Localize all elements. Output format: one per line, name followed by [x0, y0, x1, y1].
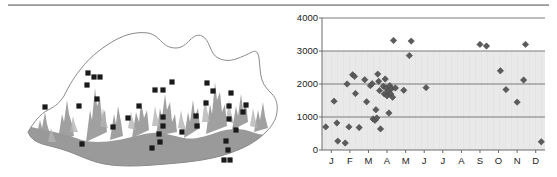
x-tick-label: A [458, 155, 465, 166]
y-tick-label: 2000 [297, 78, 318, 89]
map-marker [221, 157, 226, 162]
y-tick-label: 4000 [297, 12, 318, 23]
map-marker [160, 87, 165, 92]
elevation-scatter-panel: 01000200030004000 JFMAMJJASOND [292, 10, 557, 177]
x-tick-label: F [347, 155, 353, 166]
chart-x-axis-labels: JFMAMJJASOND [329, 155, 539, 166]
map-marker [228, 90, 233, 95]
y-tick-label: 3000 [297, 45, 318, 56]
map-marker [160, 123, 165, 128]
map-marker [194, 123, 199, 128]
map-marker [152, 87, 157, 92]
x-tick-label: M [402, 155, 410, 166]
x-tick-label: M [364, 155, 372, 166]
y-tick-label: 1000 [297, 111, 318, 122]
x-tick-label: J [329, 155, 334, 166]
map-marker [203, 100, 208, 105]
x-tick-label: O [495, 155, 502, 166]
chart-y-axis-labels: 01000200030004000 [297, 12, 322, 155]
map-relief-shading [0, 14, 292, 177]
map-marker [84, 82, 89, 87]
map-marker [240, 109, 245, 114]
map-marker [226, 103, 231, 108]
map-marker [94, 96, 99, 101]
map-marker [156, 131, 161, 136]
map-marker [85, 70, 90, 75]
elevation-scatter-svg: 01000200030004000 JFMAMJJASOND [292, 10, 557, 177]
map-marker [169, 79, 174, 84]
map-marker [97, 74, 102, 79]
map-marker [136, 103, 141, 108]
map-marker [79, 141, 84, 146]
map-marker [226, 116, 231, 121]
map-marker [110, 124, 115, 129]
bhutan-map-svg [0, 14, 292, 177]
plot-background-upper [322, 18, 545, 51]
map-marker [160, 114, 165, 119]
map-marker [227, 157, 232, 162]
x-tick-label: J [422, 155, 427, 166]
distribution-map-panel [0, 14, 292, 177]
map-marker [157, 139, 162, 144]
x-tick-label: S [477, 155, 483, 166]
x-tick-label: N [514, 155, 521, 166]
map-marker [91, 74, 96, 79]
map-marker [204, 80, 209, 85]
y-tick-label: 0 [313, 144, 318, 155]
map-marker [243, 102, 248, 107]
x-tick-label: A [384, 155, 391, 166]
map-marker [210, 88, 215, 93]
map-marker [193, 113, 198, 118]
map-marker [179, 129, 184, 134]
map-marker [125, 115, 130, 120]
x-tick-label: J [440, 155, 445, 166]
figure-container: 01000200030004000 JFMAMJJASOND [0, 0, 557, 177]
figure-top-rule [8, 4, 549, 6]
map-marker [223, 138, 228, 143]
map-marker [225, 147, 230, 152]
map-marker [42, 104, 47, 109]
map-marker [149, 145, 154, 150]
x-tick-label: D [532, 155, 539, 166]
map-marker [76, 103, 81, 108]
map-marker [233, 127, 238, 132]
